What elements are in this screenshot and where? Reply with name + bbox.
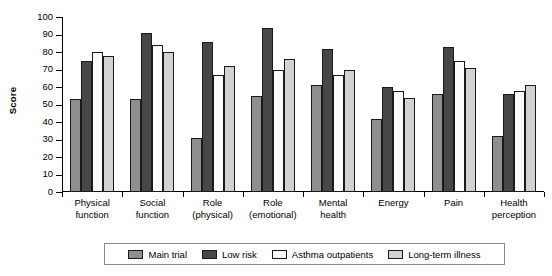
x-axis-label-line: function [62,209,122,221]
bar [525,85,536,192]
bar [492,136,503,192]
x-axis-label: Pain [424,197,484,233]
bar [152,45,163,192]
y-axis-tick-label: 90 [23,28,53,39]
x-axis-label-line: Mental [303,197,363,209]
bar [163,52,174,192]
x-axis-label-line: Pain [424,197,484,209]
bar [311,85,322,192]
y-axis-tick-label: 40 [23,116,53,127]
bar [213,75,224,192]
x-axis-label-line: Physical [62,197,122,209]
legend-swatch-icon [272,250,287,259]
bar-group [363,17,423,192]
x-axis-label: Energy [363,197,423,233]
bar [251,96,262,192]
y-axis-title: Score [7,71,18,131]
bar [284,59,295,192]
x-axis-label-line: (emotional) [243,209,303,221]
y-axis-tick-label: 20 [23,151,53,162]
legend-swatch-icon [388,250,403,259]
bar [103,56,114,193]
x-axis-label: Socialfunction [122,197,182,233]
legend-label: Main trial [148,249,187,260]
bar [202,42,213,193]
bar [141,33,152,192]
x-axis-label-line: function [122,209,182,221]
x-axis-label-line: Energy [363,197,423,209]
bar [371,119,382,193]
legend-swatch-icon [128,250,143,259]
x-axis-label-line: Role [183,197,243,209]
y-axis-tick-label: 100 [23,11,53,22]
bar [322,49,333,193]
y-axis-tick-label: 50 [23,98,53,109]
y-axis-tick-label: 30 [23,133,53,144]
bar [465,68,476,192]
x-axis-label-line: Role [243,197,303,209]
legend-item[interactable]: Asthma outpatients [272,249,373,260]
bar [443,47,454,192]
y-axis-tick-label: 80 [23,46,53,57]
bar [273,70,284,193]
bar [262,28,273,193]
bar-groups [62,17,544,192]
bar-group [484,17,544,192]
bar [70,99,81,192]
plot-area: 1009080706050403020100 [62,17,544,192]
x-axis-label: Mentalhealth [303,197,363,233]
y-axis-tick-label: 10 [23,168,53,179]
bar [224,66,235,192]
y-axis-tick-label: 0 [23,186,53,197]
bar [432,94,443,192]
y-axis-tick-label: 70 [23,63,53,74]
bar-group [243,17,303,192]
bar-group [62,17,122,192]
legend-item[interactable]: Main trial [128,249,187,260]
bar [92,52,103,192]
y-axis-tick-label: 60 [23,81,53,92]
x-axis-label-line: perception [484,209,544,221]
bar [81,61,92,192]
x-axis-label: Healthperception [484,197,544,233]
bar [333,75,344,192]
legend-item[interactable]: Long-term illness [388,249,480,260]
chart-legend: Main trialLow riskAsthma outpatientsLong… [104,243,505,265]
legend-label: Long-term illness [408,249,480,260]
legend-swatch-icon [202,250,217,259]
x-axis-label-line: health [303,209,363,221]
x-axis-label-line: Social [122,197,182,209]
x-axis-label: Role(emotional) [243,197,303,233]
x-axis-label: Role(physical) [183,197,243,233]
bar-chart: Score 1009080706050403020100 Physicalfun… [0,0,552,276]
x-axis-labels: PhysicalfunctionSocialfunctionRole(physi… [62,197,544,233]
bar [382,87,393,192]
bar-group [303,17,363,192]
legend-label: Low risk [222,249,257,260]
legend-label: Asthma outpatients [292,249,373,260]
bar-group [424,17,484,192]
bar [393,91,404,193]
bar [503,94,514,192]
legend-item[interactable]: Low risk [202,249,257,260]
bar [404,98,415,193]
x-axis-tick [544,192,545,197]
bar [191,138,202,192]
bar [454,61,465,192]
bar-group [183,17,243,192]
x-axis-label-line: (physical) [183,209,243,221]
bar [514,91,525,193]
bar-group [122,17,182,192]
x-axis-label: Physicalfunction [62,197,122,233]
x-axis-label-line: Health [484,197,544,209]
bar [130,99,141,192]
bar [344,70,355,193]
